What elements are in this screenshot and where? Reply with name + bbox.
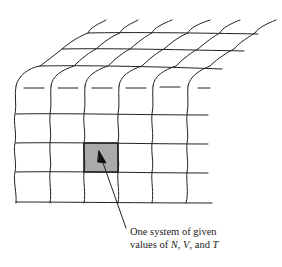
var-t: T — [213, 239, 219, 250]
top-horizontal-lines — [40, 33, 258, 69]
front-dashed-row — [24, 87, 210, 88]
caption-line-1: One system of given — [130, 225, 218, 238]
var-n: N — [171, 239, 178, 250]
annotation-caption: One system of given values of N, V, and … — [130, 225, 218, 251]
caption-line-2: values of N, V, and T — [130, 238, 218, 251]
top-diagonal-lines — [16, 20, 276, 86]
